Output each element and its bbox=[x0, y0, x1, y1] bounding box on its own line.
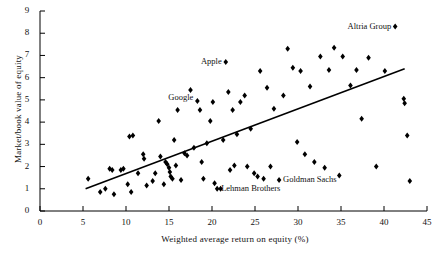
data-point bbox=[308, 84, 313, 90]
data-point bbox=[226, 89, 231, 95]
data-point bbox=[195, 98, 200, 104]
data-point bbox=[265, 85, 270, 91]
data-point bbox=[408, 178, 413, 184]
data-point bbox=[354, 67, 359, 73]
data-point bbox=[245, 164, 250, 170]
data-point bbox=[393, 24, 398, 30]
data-point bbox=[179, 177, 184, 183]
data-point bbox=[228, 167, 233, 173]
data-point bbox=[98, 189, 103, 195]
point-annotation: Google bbox=[168, 92, 193, 102]
x-tick-label: 25 bbox=[245, 217, 265, 227]
data-point bbox=[291, 65, 296, 71]
data-point bbox=[199, 159, 204, 165]
y-tick-label: 8 bbox=[17, 27, 37, 37]
data-point bbox=[238, 99, 243, 105]
x-axis-title: Weighted average return on equity (%) bbox=[40, 234, 430, 244]
point-annotation: Apple bbox=[201, 56, 222, 66]
data-point bbox=[156, 118, 161, 124]
data-point bbox=[258, 68, 263, 74]
data-point bbox=[208, 118, 213, 124]
x-tick-label: 5 bbox=[73, 217, 93, 227]
y-tick-label: 2 bbox=[17, 161, 37, 171]
data-point bbox=[232, 162, 237, 168]
y-tick-label: 6 bbox=[17, 72, 37, 82]
data-point bbox=[211, 99, 216, 105]
data-point bbox=[337, 172, 342, 178]
data-point bbox=[174, 162, 179, 168]
data-point bbox=[212, 180, 217, 186]
data-point bbox=[172, 137, 177, 143]
data-point bbox=[201, 176, 206, 182]
data-point bbox=[303, 151, 308, 157]
data-point bbox=[312, 159, 317, 165]
data-point bbox=[318, 54, 323, 60]
data-point bbox=[129, 189, 134, 195]
data-point bbox=[374, 164, 379, 170]
data-point bbox=[332, 45, 337, 51]
y-tick-label: 9 bbox=[17, 5, 37, 15]
trend-line bbox=[86, 69, 405, 189]
x-tick-label: 30 bbox=[288, 217, 308, 227]
data-point bbox=[281, 92, 286, 98]
x-tick-label: 15 bbox=[159, 217, 179, 227]
data-point bbox=[127, 134, 132, 140]
data-point bbox=[242, 92, 247, 98]
data-point bbox=[168, 169, 173, 175]
data-point bbox=[158, 154, 163, 160]
x-tick-label: 40 bbox=[374, 217, 394, 227]
x-tick-label: 35 bbox=[331, 217, 351, 227]
data-point-series bbox=[86, 24, 412, 198]
point-annotation: Altria Group bbox=[348, 21, 392, 31]
data-point bbox=[198, 107, 203, 113]
data-point bbox=[255, 174, 260, 180]
data-point bbox=[405, 132, 410, 138]
data-point bbox=[348, 82, 353, 88]
data-point bbox=[153, 170, 158, 176]
data-point bbox=[366, 55, 371, 61]
point-annotation: Lehman Brothers bbox=[221, 183, 280, 193]
data-point bbox=[112, 191, 117, 197]
y-tick-label: 5 bbox=[17, 94, 37, 104]
data-point bbox=[298, 68, 303, 74]
x-tick-label: 0 bbox=[30, 217, 50, 227]
data-point bbox=[86, 176, 91, 182]
data-point bbox=[150, 178, 155, 184]
x-tick-label: 10 bbox=[116, 217, 136, 227]
data-point bbox=[402, 100, 407, 106]
data-point bbox=[252, 170, 257, 176]
scatter-chart: Market/book value of equity Weighted ave… bbox=[0, 0, 444, 256]
data-point bbox=[141, 151, 146, 157]
data-point bbox=[285, 46, 290, 52]
data-point bbox=[230, 107, 235, 113]
data-point bbox=[142, 156, 147, 162]
data-point bbox=[125, 181, 130, 187]
data-point bbox=[359, 116, 364, 122]
y-tick-label: 0 bbox=[17, 205, 37, 215]
data-point bbox=[268, 164, 273, 170]
data-point bbox=[144, 182, 149, 188]
data-point bbox=[272, 106, 277, 112]
y-tick-label: 3 bbox=[17, 138, 37, 148]
data-point bbox=[131, 132, 136, 138]
data-point bbox=[327, 67, 332, 73]
data-point bbox=[223, 59, 228, 65]
data-point bbox=[261, 176, 266, 182]
data-point bbox=[322, 165, 327, 171]
y-tick-label: 1 bbox=[17, 183, 37, 193]
data-point bbox=[401, 96, 406, 102]
data-point bbox=[383, 68, 388, 74]
data-point bbox=[136, 170, 141, 176]
data-point bbox=[175, 107, 180, 113]
y-axis-title: Market/book value of equity bbox=[13, 39, 23, 179]
x-tick-label: 20 bbox=[202, 217, 222, 227]
data-point bbox=[340, 54, 345, 60]
y-tick-label: 4 bbox=[17, 116, 37, 126]
y-tick-label: 7 bbox=[17, 49, 37, 59]
x-tick-label: 45 bbox=[417, 217, 437, 227]
data-point bbox=[103, 186, 108, 192]
data-point bbox=[295, 139, 300, 145]
point-annotation: Goldman Sachs bbox=[283, 174, 337, 184]
data-point bbox=[162, 181, 167, 187]
